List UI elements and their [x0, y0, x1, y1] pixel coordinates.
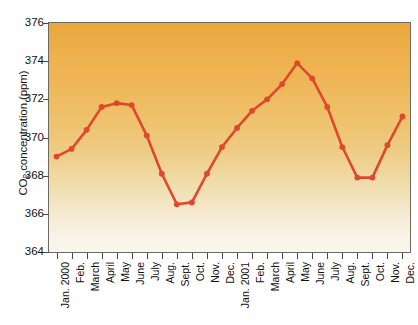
x-axis-tick-label: April	[105, 262, 116, 283]
data-point	[129, 102, 135, 108]
y-axis-tick-labels: 376374372370368366364	[13, 0, 44, 325]
y-axis-tick-label: 364	[14, 246, 44, 258]
x-axis-tick-label: Oct.	[375, 262, 386, 281]
data-point	[385, 142, 391, 148]
co2-data-points	[54, 60, 406, 207]
x-axis-tick-label: June	[135, 262, 146, 285]
x-axis-tick-label: May	[120, 262, 131, 282]
y-axis-tick-label: 366	[14, 208, 44, 220]
data-point	[249, 108, 255, 114]
data-point	[339, 144, 345, 150]
x-axis-tick-mark	[147, 253, 148, 259]
x-axis-tick-mark	[207, 253, 208, 259]
x-axis-tick-label: Dec.	[225, 262, 236, 284]
x-axis-tick-label: July	[150, 262, 161, 281]
x-axis-tick-label: Jan. 2001	[240, 262, 251, 308]
y-axis-tick-mark	[43, 214, 49, 215]
x-axis-tick-label: Aug.	[345, 262, 356, 284]
x-axis-tick-label: Jan. 2000	[60, 262, 71, 308]
x-axis-tick-mark	[177, 253, 178, 259]
x-axis-tick-mark	[297, 253, 298, 259]
x-axis-tick-mark	[267, 253, 268, 259]
x-axis-tick-label: Aug.	[165, 262, 176, 284]
data-point	[234, 125, 240, 131]
y-axis-tick-mark	[43, 23, 49, 24]
data-point	[114, 100, 120, 106]
x-axis-tick-mark	[162, 253, 163, 259]
x-axis-tick-mark	[237, 253, 238, 259]
x-axis-tick-label: March	[90, 262, 101, 291]
data-point	[54, 154, 60, 160]
x-axis-tick-label: Nov.	[210, 262, 221, 283]
y-axis-tick-mark	[43, 99, 49, 100]
x-axis-tick-label: June	[315, 262, 326, 285]
data-point	[204, 171, 210, 177]
y-axis-tick-mark	[43, 252, 49, 253]
y-axis-tick-mark	[43, 61, 49, 62]
data-point	[264, 96, 270, 102]
data-point	[144, 133, 150, 139]
data-point	[279, 81, 285, 87]
y-axis-tick-mark	[43, 138, 49, 139]
data-series-svg	[49, 23, 410, 252]
x-axis-tick-mark	[402, 253, 403, 259]
x-axis-tick-label: March	[270, 262, 281, 291]
data-point	[189, 199, 195, 205]
data-point	[219, 144, 225, 150]
x-axis-tick-label: Sept.	[360, 262, 371, 287]
x-axis-tick-mark	[282, 253, 283, 259]
x-axis-tick-mark	[57, 253, 58, 259]
y-axis-tick-label: 374	[14, 55, 44, 67]
x-axis-tick-label: Sept.	[180, 262, 191, 287]
x-axis-tick-mark	[387, 253, 388, 259]
data-point	[354, 175, 360, 181]
x-axis-tick-label: Nov.	[390, 262, 401, 283]
x-axis-tick-label: Feb.	[75, 262, 86, 283]
x-axis-tick-mark	[342, 253, 343, 259]
x-axis-tick-mark	[357, 253, 358, 259]
x-axis-tick-mark	[132, 253, 133, 259]
x-axis-tick-mark	[117, 253, 118, 259]
x-axis-tick-mark	[312, 253, 313, 259]
x-axis-tick-mark	[252, 253, 253, 259]
x-axis-tick-mark	[372, 253, 373, 259]
data-point	[400, 114, 406, 120]
data-point	[99, 104, 105, 110]
y-axis-tick-label: 372	[14, 93, 44, 105]
co2-line	[57, 63, 403, 204]
y-axis-tick-mark	[43, 176, 49, 177]
x-axis-tick-mark	[102, 253, 103, 259]
data-point	[159, 171, 165, 177]
y-axis-tick-label: 376	[14, 17, 44, 29]
data-point	[174, 201, 180, 207]
x-axis-tick-mark	[222, 253, 223, 259]
data-point	[69, 146, 75, 152]
x-axis-tick-label: July	[330, 262, 341, 281]
x-axis-tick-label: Dec.	[405, 262, 416, 284]
data-point	[370, 175, 376, 181]
x-axis-tick-mark	[327, 253, 328, 259]
data-point	[84, 127, 90, 133]
x-axis-tick-label: Feb.	[255, 262, 266, 283]
plot-area	[48, 22, 411, 253]
x-axis-tick-mark	[192, 253, 193, 259]
y-axis-tick-label: 370	[14, 132, 44, 144]
x-axis-tick-label: April	[285, 262, 296, 283]
x-axis-tick-mark	[87, 253, 88, 259]
y-axis-tick-label: 368	[14, 170, 44, 182]
data-point	[294, 60, 300, 66]
co2-concentration-chart: CO2 concentration (ppm) 3763743723703683…	[0, 0, 418, 325]
x-axis-tick-labels: Jan. 2000Feb.MarchAprilMayJuneJulyAug.Se…	[48, 262, 411, 324]
data-point	[324, 104, 330, 110]
x-axis-tick-mark	[72, 253, 73, 259]
data-point	[309, 75, 315, 81]
x-axis-tick-label: Oct.	[195, 262, 206, 281]
x-axis-tick-label: May	[300, 262, 311, 282]
